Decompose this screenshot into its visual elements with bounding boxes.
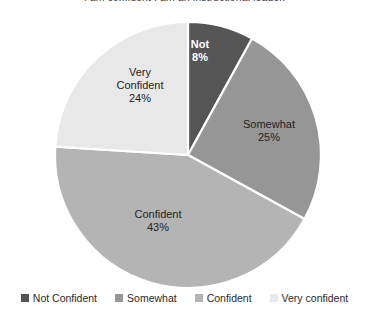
legend-swatch-icon (270, 294, 278, 302)
legend-item-not-confident[interactable]: Not Confident (21, 292, 97, 304)
pie-svg (0, 0, 369, 288)
pie-slice-very-confident[interactable] (55, 22, 188, 155)
legend-label: Very confident (282, 292, 349, 304)
pie-chart: I am confident I am an instructional lea… (0, 0, 369, 325)
chart-legend: Not ConfidentSomewhatConfidentVery confi… (0, 292, 369, 304)
legend-item-confident[interactable]: Confident (195, 292, 252, 304)
legend-label: Not Confident (33, 292, 97, 304)
legend-item-somewhat[interactable]: Somewhat (115, 292, 177, 304)
legend-swatch-icon (115, 294, 123, 302)
pie-slices (55, 22, 321, 288)
legend-swatch-icon (21, 294, 29, 302)
legend-label: Confident (207, 292, 252, 304)
legend-label: Somewhat (127, 292, 177, 304)
legend-item-very-confident[interactable]: Very confident (270, 292, 349, 304)
pie-plot-area (0, 0, 369, 288)
legend-swatch-icon (195, 294, 203, 302)
